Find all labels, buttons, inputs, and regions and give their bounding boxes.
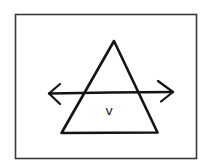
- arrow-shaft: [49, 92, 173, 94]
- frame-rectangle: [16, 15, 197, 159]
- triangle-label: v: [105, 103, 113, 118]
- double-headed-arrow: [49, 81, 173, 104]
- triangle: [62, 41, 158, 133]
- diagram-canvas: v: [0, 0, 211, 167]
